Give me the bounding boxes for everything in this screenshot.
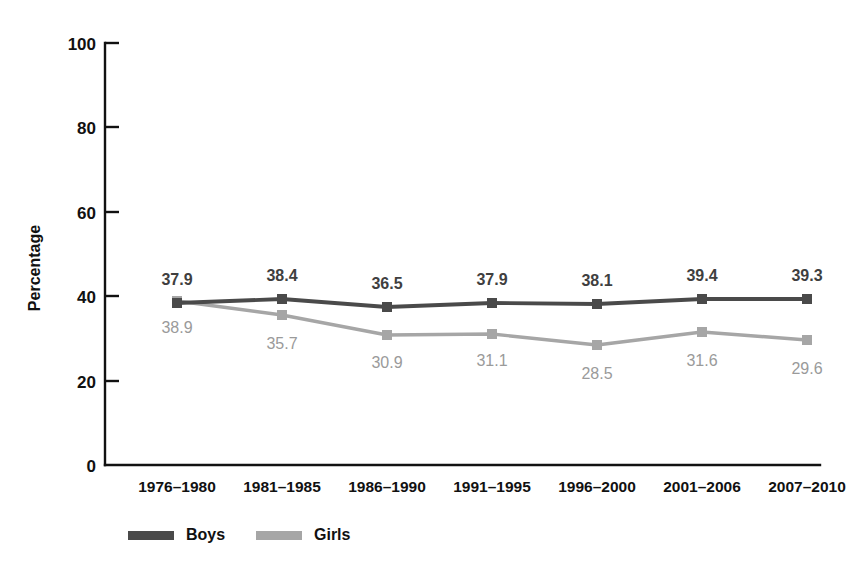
x-tick-label-6: 2001–2006 (663, 478, 741, 495)
data-labels-boys: 37.9 38.4 36.5 37.9 38.1 39.4 39.3 (161, 267, 822, 292)
data-label-boys-6: 39.4 (686, 267, 717, 284)
data-point-girls-4 (487, 329, 497, 339)
y-tick-label-0: 0 (87, 457, 96, 476)
legend-label-girls: Girls (314, 526, 351, 543)
data-point-boys-5 (592, 299, 602, 309)
data-point-girls-5 (592, 340, 602, 350)
data-point-girls-3 (382, 330, 392, 340)
chart-container: 100 80 60 40 20 0 Percentage (0, 0, 848, 580)
y-axis-tick-labels: 100 80 60 40 20 0 (68, 35, 96, 476)
y-tick-label-100: 100 (68, 35, 96, 54)
chart-legend: Boys Girls (128, 526, 351, 543)
y-axis-ticks (105, 43, 119, 381)
x-tick-label-2: 1981–1985 (243, 478, 321, 495)
data-point-boys-7 (802, 294, 812, 304)
y-axis-title: Percentage (26, 225, 43, 311)
data-label-girls-3: 30.9 (371, 354, 402, 371)
data-labels-girls: 38.9 35.7 30.9 31.1 28.5 31.6 29.6 (161, 319, 822, 382)
legend-swatch-boys (128, 531, 174, 540)
data-point-girls-7 (802, 335, 812, 345)
data-label-boys-7: 39.3 (791, 267, 822, 284)
x-tick-label-3: 1986–1990 (348, 478, 426, 495)
x-tick-label-5: 1996–2000 (558, 478, 636, 495)
data-label-girls-6: 31.6 (686, 352, 717, 369)
y-tick-label-60: 60 (77, 204, 96, 223)
data-label-boys-5: 38.1 (581, 272, 612, 289)
y-tick-label-20: 20 (77, 373, 96, 392)
data-label-girls-5: 28.5 (581, 365, 612, 382)
y-tick-label-80: 80 (77, 119, 96, 138)
data-point-boys-3 (382, 302, 392, 312)
data-point-boys-4 (487, 298, 497, 308)
data-label-boys-4: 37.9 (476, 271, 507, 288)
legend-label-boys: Boys (186, 526, 225, 543)
data-label-girls-4: 31.1 (476, 352, 507, 369)
data-point-boys-1 (172, 298, 182, 308)
series-markers-boys (172, 294, 812, 312)
x-tick-label-1: 1976–1980 (138, 478, 216, 495)
legend-swatch-girls (256, 531, 302, 540)
data-label-girls-2: 35.7 (266, 335, 297, 352)
x-tick-label-7: 2007–2010 (768, 478, 846, 495)
x-axis-tick-labels: 1976–1980 1981–1985 1986–1990 1991–1995 … (138, 478, 846, 495)
data-point-boys-6 (697, 294, 707, 304)
data-point-girls-2 (277, 310, 287, 320)
line-chart: 100 80 60 40 20 0 Percentage (0, 0, 848, 580)
x-tick-label-4: 1991–1995 (453, 478, 531, 495)
data-label-boys-3: 36.5 (371, 275, 402, 292)
data-label-boys-2: 38.4 (266, 267, 297, 284)
data-label-boys-1: 37.9 (161, 271, 192, 288)
y-tick-label-40: 40 (77, 288, 96, 307)
data-label-girls-1: 38.9 (161, 319, 192, 336)
data-label-girls-7: 29.6 (791, 360, 822, 377)
data-point-girls-6 (697, 327, 707, 337)
data-point-boys-2 (277, 294, 287, 304)
